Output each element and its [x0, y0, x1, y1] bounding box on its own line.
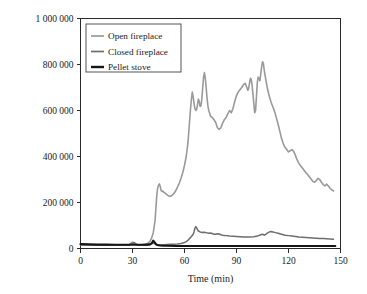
y-axis-ticks: 0200 000400 000600 000800 0001 000 000: [36, 14, 81, 254]
x-axis-title: Time (min): [188, 273, 233, 285]
y-tick-label: 400 000: [43, 152, 74, 162]
y-tick-label: 200 000: [43, 198, 74, 208]
x-tick-label: 60: [180, 256, 190, 266]
y-tick-label: 0: [69, 244, 74, 254]
y-tick-label: 1 000 000: [36, 14, 74, 24]
x-tick-label: 150: [333, 256, 348, 266]
legend-label-closed-fireplace: Closed fireplace: [108, 47, 168, 57]
x-tick-label: 120: [281, 256, 296, 266]
y-tick-label: 800 000: [43, 60, 74, 70]
chart-legend: Open fireplaceClosed fireplacePellet sto…: [86, 24, 181, 72]
particle-concentration-line-chart: 0200 000400 000600 000800 0001 000 000 0…: [0, 0, 367, 294]
legend-label-pellet-stove: Pellet stove: [108, 62, 151, 72]
x-tick-label: 0: [78, 256, 83, 266]
legend-label-open-fireplace: Open fireplace: [108, 31, 162, 41]
data-series-group: [81, 62, 336, 246]
series-line-open-fireplace: [81, 62, 334, 245]
series-line-pellet-stove: [81, 241, 336, 246]
y-tick-label: 600 000: [43, 106, 74, 116]
x-tick-label: 30: [128, 256, 138, 266]
series-line-closed-fireplace: [81, 227, 334, 246]
chart-figure: 0200 000400 000600 000800 0001 000 000 0…: [0, 0, 367, 294]
x-axis-ticks: 0306090120150: [78, 249, 348, 266]
x-tick-label: 90: [232, 256, 242, 266]
